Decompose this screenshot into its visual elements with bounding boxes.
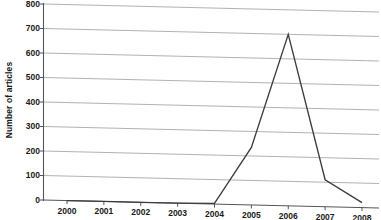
x-axis-tick-label: 2007 [305, 213, 345, 220]
x-axis-tick-label: 2006 [268, 212, 308, 220]
x-axis-tick-label: 2005 [231, 211, 271, 220]
x-axis-tick-label: 2001 [84, 207, 124, 216]
x-axis-tick-label: 2002 [121, 208, 161, 217]
x-axis-tick-label: 2000 [47, 207, 87, 216]
x-axis-tick-label: 2004 [195, 210, 235, 219]
line-chart: Number of articles 010020030040050060070… [0, 0, 381, 220]
x-axis-tick-label: 2008 [342, 214, 381, 220]
x-axis-tick-label: 2003 [158, 209, 198, 218]
x-axis-tick-labels: 200020012002200320042005200620072008 [0, 0, 381, 220]
